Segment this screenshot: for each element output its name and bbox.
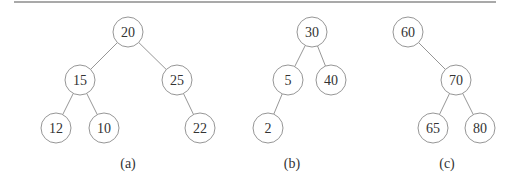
tree-edge-15-12 xyxy=(63,93,74,114)
tree-edge-5-2 xyxy=(274,94,282,114)
tree-edge-60-70 xyxy=(419,43,446,70)
node-label: 40 xyxy=(324,73,338,88)
node-label: 65 xyxy=(426,121,440,136)
subfigure-caption: (a) xyxy=(120,156,136,172)
tree-node-22: 22 xyxy=(185,113,215,143)
node-label: 60 xyxy=(401,25,415,40)
tree-node-10: 10 xyxy=(89,113,119,143)
tree-edge-30-40 xyxy=(318,46,326,66)
tree-node-70: 70 xyxy=(441,65,471,95)
node-label: 70 xyxy=(449,73,463,88)
tree-edge-20-15 xyxy=(91,43,118,70)
tree-node-30: 30 xyxy=(297,17,327,47)
tree-edge-30-5 xyxy=(295,45,306,66)
tree-node-25: 25 xyxy=(162,65,192,95)
node-label: 10 xyxy=(97,121,111,136)
tree-node-5: 5 xyxy=(273,65,303,95)
edges-layer xyxy=(63,42,474,114)
tree-edge-25-22 xyxy=(183,94,193,115)
tree-node-12: 12 xyxy=(41,113,71,143)
tree-edge-70-80 xyxy=(463,93,474,114)
node-label: 20 xyxy=(121,25,135,40)
tree-node-20: 20 xyxy=(113,17,143,47)
binary-trees-figure: 20152512102230540260706580 (a)(b)(c) xyxy=(0,0,520,190)
node-label: 25 xyxy=(170,73,184,88)
tree-edge-70-65 xyxy=(439,94,449,115)
tree-node-2: 2 xyxy=(253,113,283,143)
subfigure-caption: (c) xyxy=(439,156,455,172)
tree-node-80: 80 xyxy=(465,113,495,143)
subfigure-caption: (b) xyxy=(284,156,301,172)
tree-node-60: 60 xyxy=(393,17,423,47)
tree-node-65: 65 xyxy=(418,113,448,143)
captions-layer: (a)(b)(c) xyxy=(120,156,455,172)
tree-edge-20-25 xyxy=(139,42,167,69)
tree-node-40: 40 xyxy=(316,65,346,95)
node-label: 5 xyxy=(285,73,292,88)
tree-node-15: 15 xyxy=(65,65,95,95)
node-label: 30 xyxy=(305,25,319,40)
node-label: 22 xyxy=(193,121,207,136)
node-label: 2 xyxy=(265,121,272,136)
node-label: 80 xyxy=(473,121,487,136)
node-label: 12 xyxy=(49,121,63,136)
node-label: 15 xyxy=(73,73,87,88)
nodes-layer: 20152512102230540260706580 xyxy=(41,17,495,143)
tree-edge-15-10 xyxy=(87,93,98,114)
